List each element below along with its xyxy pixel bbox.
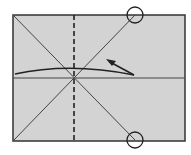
origami-diagram xyxy=(0,0,191,155)
